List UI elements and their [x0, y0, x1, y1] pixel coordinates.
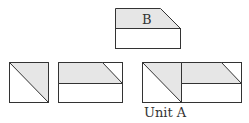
unit-a-label: Unit A — [144, 105, 187, 120]
shape-b-bottom-band — [116, 29, 181, 49]
unit-a: Unit A — [143, 63, 242, 121]
rectangle-block — [59, 63, 123, 103]
quilt-diagram: B Unit A — [0, 0, 249, 123]
half-square-triangle-block — [10, 63, 49, 103]
shape-b-label: B — [142, 12, 152, 27]
shape-b: B — [116, 9, 181, 49]
